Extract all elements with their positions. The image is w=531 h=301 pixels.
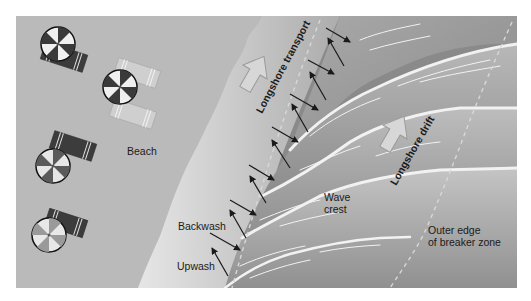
label-wave-crest-1: Wave (324, 191, 351, 203)
umbrella-icon (103, 70, 137, 104)
longshore-transport-diagram: Beach Backwash Upwash Wave crest Outer e… (0, 0, 531, 301)
label-wave-crest-2: crest (324, 203, 347, 215)
umbrella-icon (41, 27, 75, 61)
label-upwash: Upwash (177, 260, 215, 272)
label-outer-edge-1: Outer edge (428, 224, 481, 236)
umbrella-icon (36, 149, 70, 183)
label-outer-edge-2: of breaker zone (428, 236, 501, 248)
umbrella-icon (32, 218, 66, 252)
label-beach: Beach (127, 145, 157, 157)
diagram-frame: Beach Backwash Upwash Wave crest Outer e… (16, 16, 517, 288)
label-backwash: Backwash (178, 220, 226, 232)
